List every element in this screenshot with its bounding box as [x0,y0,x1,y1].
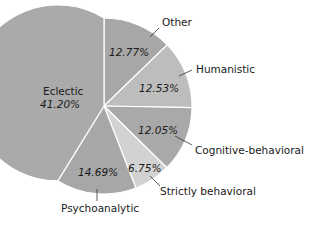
pct-eclectic: 41.20% [40,98,80,110]
name-eclectic: Eclectic [43,85,84,97]
pct-strictly: 6.75% [128,162,161,174]
pie-chart: 12.77% 12.53% 12.05% 6.75% 14.69% Eclect… [0,0,313,230]
pct-other: 12.77% [109,46,149,58]
label-strictly: Strictly behavioral [160,185,256,197]
pct-humanistic: 12.53% [139,82,179,94]
label-other: Other [162,16,192,28]
label-humanistic: Humanistic [196,63,255,75]
pct-psychoanalytic: 14.69% [78,166,118,178]
label-psychoanalytic: Psychoanalytic [61,202,139,214]
label-cognitive: Cognitive-behavioral [195,144,304,156]
pct-cognitive: 12.05% [138,124,178,136]
